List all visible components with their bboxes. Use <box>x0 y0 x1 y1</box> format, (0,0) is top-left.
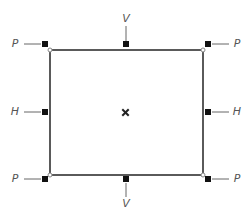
handle-bottom-middle[interactable] <box>123 176 129 182</box>
handle-left-middle[interactable] <box>42 109 48 115</box>
label-top-left: P <box>9 38 21 50</box>
label-bottom-right: P <box>231 173 243 185</box>
corner-dot-bottom-left <box>48 173 52 177</box>
handle-right-middle[interactable] <box>205 109 211 115</box>
label-right-middle: H <box>231 106 243 118</box>
handle-bottom-left[interactable] <box>42 176 48 182</box>
label-top-right: P <box>231 38 243 50</box>
handle-top-left[interactable] <box>42 41 48 47</box>
corner-dot-top-right <box>201 48 205 52</box>
corner-dot-top-left <box>48 48 52 52</box>
label-left-middle: H <box>9 106 21 118</box>
diagram-canvas: P P P P H H V V <box>0 0 250 217</box>
label-bottom-left: P <box>9 173 21 185</box>
handle-top-right[interactable] <box>205 41 211 47</box>
label-top-middle: V <box>120 13 132 25</box>
handle-bottom-right[interactable] <box>205 176 211 182</box>
handle-top-middle[interactable] <box>123 41 129 47</box>
diagram-svg <box>0 0 250 217</box>
label-bottom-middle: V <box>120 198 132 210</box>
corner-dot-bottom-right <box>201 173 205 177</box>
center-marker-icon <box>123 110 128 115</box>
